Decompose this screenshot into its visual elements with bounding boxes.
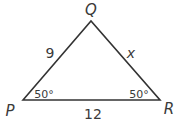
- angle-label-r: 50°: [129, 88, 149, 101]
- side-label-pq: 9: [46, 45, 55, 61]
- vertex-label-q: Q: [85, 1, 97, 19]
- side-label-qr: x: [126, 45, 136, 61]
- angle-label-p: 50°: [34, 88, 54, 101]
- vertex-label-r: R: [164, 100, 174, 118]
- side-label-pr: 12: [84, 106, 102, 122]
- vertex-label-p: P: [5, 102, 15, 120]
- triangle-diagram: Q P R 9 x 12 50° 50°: [0, 0, 180, 127]
